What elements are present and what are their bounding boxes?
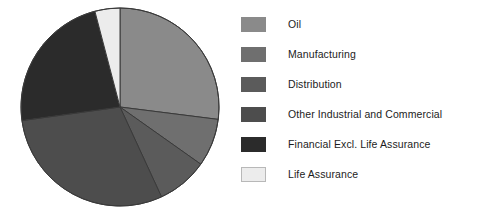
pie-svg <box>0 0 239 212</box>
legend-item-manufacturing[interactable]: Manufacturing <box>239 39 478 69</box>
legend-swatch-oil <box>241 17 266 32</box>
legend-item-oil[interactable]: Oil <box>239 9 478 39</box>
legend-label-other-industrial-and-commercial: Other Industrial and Commercial <box>288 109 442 120</box>
legend-item-other-industrial-and-commercial[interactable]: Other Industrial and Commercial <box>239 99 478 129</box>
chart-legend: Oil Manufacturing Distribution Other Ind… <box>239 0 478 212</box>
legend-swatch-life-assurance <box>241 167 266 182</box>
legend-swatch-financial-excl-life-assurance <box>241 137 266 152</box>
legend-label-manufacturing: Manufacturing <box>288 49 356 60</box>
pie-slice[interactable] <box>120 8 219 119</box>
pie-slice-group <box>21 8 219 206</box>
legend-item-life-assurance[interactable]: Life Assurance <box>239 159 478 189</box>
legend-label-oil: Oil <box>288 19 301 30</box>
legend-item-distribution[interactable]: Distribution <box>239 69 478 99</box>
legend-swatch-other-industrial-and-commercial <box>241 107 266 122</box>
legend-item-financial-excl-life-assurance[interactable]: Financial Excl. Life Assurance <box>239 129 478 159</box>
legend-label-financial-excl-life-assurance: Financial Excl. Life Assurance <box>288 139 430 150</box>
legend-label-distribution: Distribution <box>288 79 342 90</box>
legend-swatch-manufacturing <box>241 47 266 62</box>
pie-plot-area <box>0 0 239 212</box>
pie-chart-figure: Oil Manufacturing Distribution Other Ind… <box>0 0 478 212</box>
legend-label-life-assurance: Life Assurance <box>288 169 358 180</box>
legend-swatch-distribution <box>241 77 266 92</box>
